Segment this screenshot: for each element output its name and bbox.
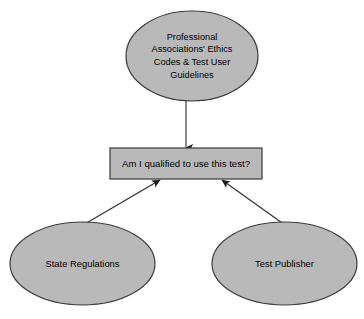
diagram-shapes-layer xyxy=(0,0,364,319)
edge-left-to-box xyxy=(83,180,160,225)
node-top-ellipse xyxy=(126,11,258,101)
node-left-ellipse xyxy=(10,222,155,305)
node-right-ellipse xyxy=(212,222,357,305)
node-decision-box xyxy=(110,148,262,179)
edge-right-to-box xyxy=(222,180,285,225)
diagram-canvas: Professional Associations' Ethics Codes … xyxy=(0,0,364,319)
